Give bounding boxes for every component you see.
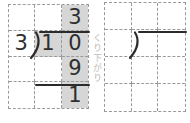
- remainder-digit: 1: [68, 85, 81, 106]
- subtraction-line: [35, 84, 90, 86]
- grid-cell: [9, 5, 35, 31]
- grid-cell: 1: [62, 82, 88, 108]
- grid-cell: [105, 57, 132, 84]
- grid-cell: [105, 84, 132, 111]
- grid-cell: [158, 57, 185, 84]
- grid-cell: [105, 30, 132, 57]
- grid-cell: [158, 3, 185, 30]
- product-digit: 9: [68, 58, 81, 79]
- grid-cell: [105, 3, 132, 30]
- grid-cell: [132, 3, 159, 30]
- quotient-digit: 3: [68, 7, 81, 28]
- left-division-grid: 3 3 1 0 9 1: [8, 4, 89, 109]
- grid-cell: [158, 84, 185, 111]
- grid-cell: [9, 82, 35, 108]
- division-bar: [39, 31, 90, 33]
- right-division-grid: [104, 2, 186, 112]
- dividend-tens-digit: 1: [41, 33, 54, 54]
- division-bracket: [30, 32, 43, 59]
- grid-cell: 3: [62, 5, 88, 31]
- grid-cell: [132, 57, 159, 84]
- grid-cell: [35, 57, 61, 83]
- grid-cell: [9, 57, 35, 83]
- division-bracket: [129, 32, 142, 59]
- divisor-digit: 3: [14, 33, 27, 54]
- worksheet: 3 3 1 0 9 1 くり下がり: [0, 0, 190, 123]
- grid-cell: [35, 82, 61, 108]
- grid-cell: [132, 84, 159, 111]
- division-bar: [138, 31, 187, 33]
- grid-cell: 0: [62, 31, 88, 57]
- grid-cell: 9: [62, 57, 88, 83]
- grid-cell: [158, 30, 185, 57]
- dividend-ones-digit: 0: [68, 33, 81, 54]
- watermark-text: くり下がり: [88, 33, 101, 97]
- grid-cell: [35, 5, 61, 31]
